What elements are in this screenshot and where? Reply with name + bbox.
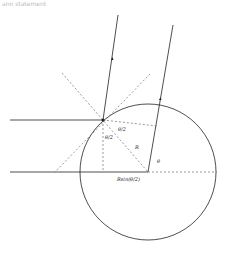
- raindrop-refraction-diagram: θ/2 θ/2 R θ Rsin(θ/2): [0, 0, 227, 253]
- label-radius: R: [134, 144, 139, 150]
- tangent-line: [55, 74, 150, 172]
- label-base: Rsin(θ/2): [116, 176, 140, 182]
- arrow-radial-ray: [159, 97, 162, 100]
- horizontal-dashed: [103, 120, 157, 126]
- contact-point: [102, 119, 105, 122]
- label-half-angle-left: θ/2: [105, 134, 113, 140]
- outgoing-ray: [103, 15, 118, 120]
- label-angle: θ: [157, 158, 160, 164]
- label-half-angle-top: θ/2: [118, 126, 126, 132]
- normal-line: [62, 73, 148, 172]
